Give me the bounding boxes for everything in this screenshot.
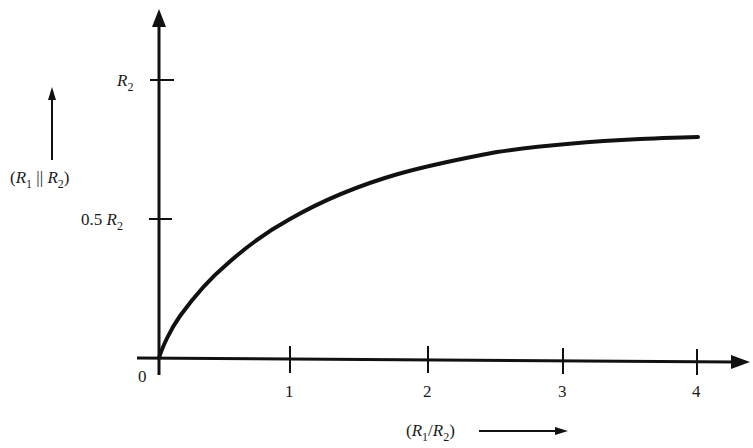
ylabel-r1: R: [15, 168, 27, 187]
x-axis-arrow-icon: [731, 355, 750, 369]
y-tick-label-half-r2: 0.5 R2: [81, 210, 123, 233]
y-tick-half-prefix: 0.5: [81, 210, 107, 229]
y-tick-half-r-sub: 2: [117, 219, 123, 233]
ylabel-close: ): [64, 168, 70, 187]
x-axis-label: (R1/R2): [406, 421, 455, 444]
ylabel-arrow-icon: [48, 87, 56, 100]
x-axis: [137, 358, 735, 362]
y-tick-r-sub: 2: [127, 80, 133, 94]
y-tick-label-r2: R2: [116, 71, 133, 94]
xlabel-arrow-icon: [555, 427, 568, 435]
y-axis-arrow-icon: [152, 9, 166, 27]
curve-parallel-resistance: [159, 137, 698, 358]
y-tick-half-r: R: [106, 210, 118, 229]
chart: 0 1 2 3 4 R2 0.5 R2 (R1 || R2) (R1/R2): [0, 0, 753, 448]
x-tick-label-1: 1: [285, 382, 294, 401]
ylabel-parallel: ||: [32, 168, 47, 187]
xlabel-close: ): [449, 421, 455, 440]
x-tick-label-4: 4: [692, 382, 701, 401]
x-tick-label-2: 2: [423, 382, 432, 401]
y-tick-r: R: [116, 71, 128, 90]
xlabel-r2: R: [432, 421, 444, 440]
x-tick-label-3: 3: [558, 382, 567, 401]
ylabel-r2: R: [46, 168, 58, 187]
y-axis-label: (R1 || R2): [10, 168, 69, 191]
origin-label: 0: [138, 367, 147, 386]
xlabel-r1: R: [411, 421, 423, 440]
